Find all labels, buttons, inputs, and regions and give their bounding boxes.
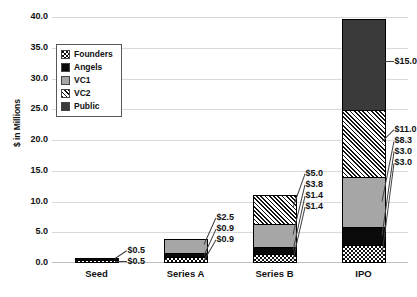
legend-swatch-icon [61, 89, 70, 98]
bar-group-series-b[interactable] [230, 17, 319, 263]
y-axis-tick-label: 25.0 [14, 104, 48, 113]
stacked-bar [253, 17, 297, 263]
y-axis-tick-label: 20.0 [14, 135, 48, 144]
legend-item-vc2[interactable]: VC2 [61, 87, 117, 100]
bar-segment-public[interactable] [342, 19, 386, 111]
data-label: $3.8 [306, 179, 324, 189]
y-axis-tick-label: 40.0 [14, 12, 48, 21]
bar-segment-vc1[interactable] [164, 239, 208, 254]
data-label: $2.5 [217, 212, 235, 222]
x-axis-tick-label: Series B [230, 268, 319, 279]
chart-legend: FoundersAngelsVC1VC2Public [56, 44, 122, 117]
y-axis-tick-label: 5.0 [14, 227, 48, 236]
legend-label: VC2 [74, 89, 91, 98]
legend-swatch-icon [61, 102, 70, 111]
y-axis-tick-label: 30.0 [14, 74, 48, 83]
x-axis-tick-labels: SeedSeries ASeries BIPO [52, 268, 408, 279]
data-label: $15.0 [395, 56, 417, 66]
legend-item-angels[interactable]: Angels [61, 61, 117, 74]
data-label: $5.0 [306, 168, 324, 178]
bar-segment-vc2[interactable] [342, 110, 386, 178]
bar-segment-founders[interactable] [342, 245, 386, 263]
data-label: $0.9 [217, 234, 235, 244]
legend-label: VC1 [74, 76, 91, 85]
legend-swatch-icon [61, 50, 70, 59]
legend-swatch-icon [61, 76, 70, 85]
data-label: $0.9 [217, 223, 235, 233]
data-label: $3.0 [395, 146, 413, 156]
x-axis-tick-label: Seed [52, 268, 141, 279]
stacked-bar [164, 17, 208, 263]
y-axis-tick-label: 0.0 [14, 258, 48, 267]
data-label: $1.4 [306, 190, 324, 200]
data-label: $1.4 [306, 201, 324, 211]
x-axis-tick-label: Series A [141, 268, 230, 279]
data-label: $11.0 [395, 124, 417, 134]
legend-label: Angels [74, 63, 102, 72]
y-axis-tick-label: 10.0 [14, 197, 48, 206]
bar-segment-founders[interactable] [164, 257, 208, 263]
bar-segment-vc2[interactable] [253, 195, 297, 226]
y-axis-tick-labels: 40.035.030.025.020.015.010.05.00.0 [8, 0, 48, 297]
data-label: $0.5 [128, 245, 146, 255]
bar-segment-vc1[interactable] [342, 177, 386, 228]
leader-line [115, 261, 127, 262]
bar-segment-vc1[interactable] [253, 224, 297, 247]
bar-segment-founders[interactable] [253, 254, 297, 263]
bar-segment-angels[interactable] [342, 227, 386, 245]
legend-item-public[interactable]: Public [61, 100, 117, 113]
legend-item-vc1[interactable]: VC1 [61, 74, 117, 87]
legend-swatch-icon [61, 63, 70, 72]
leader-line [382, 61, 394, 62]
y-axis-tick-label: 35.0 [14, 43, 48, 52]
legend-label: Public [74, 102, 100, 111]
legend-label: Founders [74, 50, 113, 59]
legend-item-founders[interactable]: Founders [61, 48, 117, 61]
stacked-bar [342, 17, 386, 263]
data-label: $8.3 [395, 135, 413, 145]
data-label: $3.0 [395, 157, 413, 167]
y-axis-tick-label: 15.0 [14, 166, 48, 175]
bar-segment-founders[interactable] [75, 260, 119, 263]
data-label: $0.5 [128, 256, 146, 266]
x-axis-tick-label: IPO [319, 268, 408, 279]
